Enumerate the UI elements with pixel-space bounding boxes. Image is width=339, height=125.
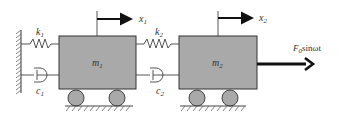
label-k1: k1 — [36, 26, 44, 39]
wheel-m2-left — [189, 90, 205, 106]
label-x2: x2 — [258, 12, 267, 25]
wheel-m1-left — [68, 90, 84, 106]
label-x1: x1 — [138, 13, 147, 26]
displacement-x2 — [218, 11, 252, 36]
ground-m2 — [180, 106, 246, 111]
damper-c2 — [136, 68, 179, 82]
label-c2: c2 — [156, 85, 164, 98]
wheel-m2-right — [222, 90, 238, 106]
spring-k1 — [21, 39, 59, 48]
displacement-x1 — [97, 11, 131, 36]
label-c1: c1 — [36, 85, 44, 98]
diagram-canvas: k1 c1 m1 x1 k2 c2 m2 — [0, 0, 339, 125]
damper-c1 — [21, 68, 59, 82]
spring-k2 — [136, 39, 179, 48]
force-arrow — [257, 58, 313, 70]
label-k2: k2 — [155, 26, 163, 39]
label-force: F0sinωt — [292, 43, 321, 55]
ground-m1 — [65, 106, 133, 111]
wheel-m1-right — [109, 90, 125, 106]
fixed-wall — [16, 30, 21, 94]
